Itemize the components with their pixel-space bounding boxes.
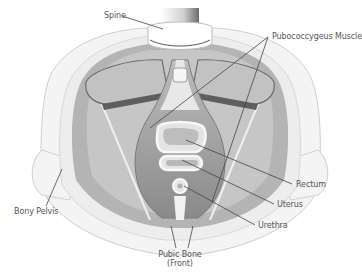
label-pubococcygeus-muscle: Pubococcygeus Muscle — [272, 32, 362, 41]
label-pubic-bone-line2: (Front) — [150, 259, 210, 268]
rectum-lumen — [163, 128, 198, 145]
label-pubic-bone: Pubic Bone (Front) — [150, 250, 210, 268]
pubic-symphysis — [174, 196, 186, 220]
label-spine: Spine — [104, 11, 126, 20]
label-bony-pelvis: Bony Pelvis — [14, 207, 58, 216]
label-uterus: Uterus — [277, 200, 303, 209]
label-rectum: Rectum — [296, 180, 326, 189]
spine-leader — [122, 16, 163, 29]
urethra-lumen — [178, 184, 183, 189]
spine — [148, 8, 212, 50]
label-urethra: Urethra — [258, 221, 288, 230]
label-pubic-bone-line1: Pubic Bone — [150, 250, 210, 259]
